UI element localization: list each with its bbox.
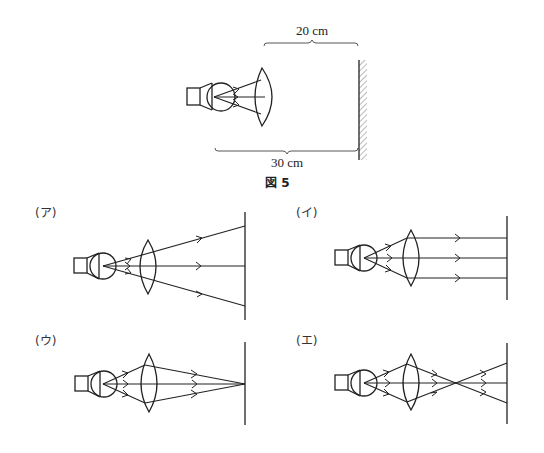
option-c-label: (ウ) xyxy=(35,334,56,348)
light-rays xyxy=(103,365,245,403)
dimension-20cm-label: 20 cm xyxy=(296,23,328,38)
option-a-label: (ア) xyxy=(35,206,56,220)
figure-5: 20 cm 30 cm 図 5 xyxy=(187,23,367,190)
dimension-20cm: 20 cm xyxy=(264,23,358,46)
lens-icon xyxy=(140,240,156,294)
light-rays xyxy=(214,80,265,114)
dimension-30cm-label: 30 cm xyxy=(271,155,303,170)
light-rays xyxy=(364,363,507,403)
dimension-30cm: 30 cm xyxy=(215,148,358,170)
lens-icon xyxy=(141,354,157,412)
option-c[interactable]: (ウ) xyxy=(35,334,245,425)
option-b[interactable]: (イ) xyxy=(296,206,507,300)
wall-icon xyxy=(359,60,367,160)
option-a[interactable]: (ア) xyxy=(35,206,245,320)
light-rays xyxy=(364,234,507,282)
optics-diagram: 20 cm 30 cm 図 5 xyxy=(0,0,544,453)
figure-caption: 図 5 xyxy=(265,176,290,190)
option-d-label: (エ) xyxy=(296,334,317,348)
option-d[interactable]: (エ) xyxy=(296,334,507,424)
light-rays xyxy=(103,226,245,306)
option-b-label: (イ) xyxy=(296,206,317,220)
